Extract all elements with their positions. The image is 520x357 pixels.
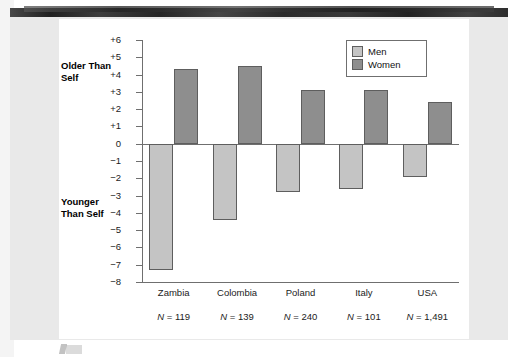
chart-legend: Men Women	[346, 40, 427, 77]
y-axis-tick	[136, 247, 142, 248]
y-axis-tick-label: +3	[81, 87, 121, 97]
bar-zambia-men	[149, 144, 173, 270]
legend-item-men: Men	[352, 45, 421, 58]
y-axis-tick-label: −1	[81, 156, 121, 166]
x-axis-label-usa: USA	[382, 287, 472, 298]
bar-zambia-women	[174, 69, 198, 143]
bar-colombia-women	[238, 66, 262, 144]
y-axis-tick-label: −8	[81, 277, 121, 287]
bar-poland-women	[301, 90, 325, 144]
y-axis-tick	[136, 161, 142, 162]
y-axis-tick	[136, 230, 142, 231]
axis-note-older-than-self: Older Than Self	[61, 60, 121, 84]
y-axis-tick-label: +6	[81, 35, 121, 45]
scan-shadow-edge-secondary	[24, 6, 494, 12]
bar-italy-men	[339, 144, 363, 189]
y-axis-tick-label: −7	[81, 260, 121, 270]
y-axis-tick	[136, 92, 142, 93]
y-axis-tick-label: −5	[81, 225, 121, 235]
y-axis-tick	[136, 126, 142, 127]
y-axis-tick	[136, 109, 142, 110]
y-axis-line	[142, 40, 143, 283]
bar-chart: +6+5+4+3+2+10−1−2−3−4−5−6−7−8 ZambiaN = …	[59, 19, 469, 339]
sample-size-usa: N = 1,491	[382, 311, 472, 322]
legend-item-women: Women	[352, 58, 421, 71]
y-axis-tick-label: +1	[81, 121, 121, 131]
bar-usa-women	[428, 102, 452, 143]
bar-usa-men	[403, 144, 427, 177]
y-axis-tick	[136, 144, 142, 145]
scanned-page: +6+5+4+3+2+10−1−2−3−4−5−6−7−8 ZambiaN = …	[0, 0, 520, 357]
y-axis-tick-label: +2	[81, 104, 121, 114]
y-axis-tick	[136, 213, 142, 214]
legend-label-men: Men	[368, 46, 386, 57]
y-axis-tick	[136, 57, 142, 58]
scan-artifact	[66, 345, 82, 354]
bar-colombia-men	[213, 144, 237, 220]
y-axis-tick	[136, 75, 142, 76]
legend-swatch-men-icon	[352, 46, 363, 57]
y-axis-tick-label: −6	[81, 242, 121, 252]
legend-swatch-women-icon	[352, 59, 363, 70]
y-axis-tick	[136, 178, 142, 179]
legend-label-women: Women	[368, 59, 401, 70]
bar-italy-women	[364, 90, 388, 144]
y-axis-tick	[136, 196, 142, 197]
axis-note-younger-than-self: Younger Than Self	[61, 196, 121, 220]
figure-plate: +6+5+4+3+2+10−1−2−3−4−5−6−7−8 ZambiaN = …	[59, 19, 469, 339]
y-axis-tick	[136, 265, 142, 266]
y-axis-tick-label: 0	[81, 139, 121, 149]
bar-poland-men	[276, 144, 300, 192]
y-axis-tick	[136, 40, 142, 41]
y-axis-tick-label: −2	[81, 173, 121, 183]
x-axis-line	[142, 282, 459, 283]
y-axis-tick	[136, 282, 142, 283]
